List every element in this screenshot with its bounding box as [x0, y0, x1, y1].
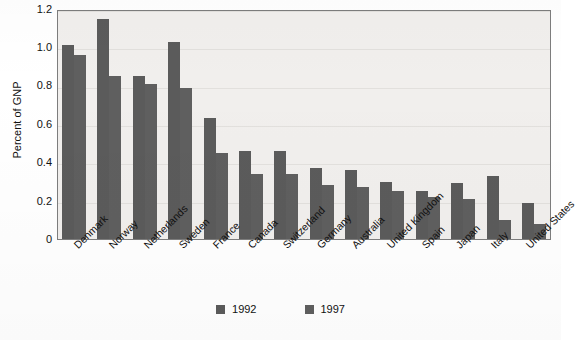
bar-norway-1997	[109, 76, 121, 239]
bar-group	[451, 11, 475, 239]
bar-germany-1992	[310, 168, 322, 239]
plot-area	[57, 10, 551, 240]
legend-swatch-icon	[305, 305, 314, 314]
bar-group	[239, 11, 263, 239]
bar-group	[345, 11, 369, 239]
chart-legend: 19921997	[0, 303, 561, 315]
bar-group	[522, 11, 546, 239]
y-tick-label: 1.0	[22, 42, 52, 52]
bar-netherlands-1997	[145, 84, 157, 239]
bar-united-kingdom-1992	[380, 182, 392, 240]
x-axis-tick-labels: DenmarkNorwayNetherlandsSwedenFranceCana…	[57, 243, 551, 305]
y-tick-label: 0.2	[22, 196, 52, 206]
bar-denmark-1997	[74, 55, 86, 239]
bar-japan-1992	[451, 183, 463, 239]
bar-group	[97, 11, 121, 239]
legend-label: 1997	[321, 303, 345, 315]
bar-group	[380, 11, 404, 239]
legend-item-1997: 1997	[305, 303, 345, 315]
y-tick-label: 0.8	[22, 80, 52, 90]
legend-swatch-icon	[216, 305, 225, 314]
bar-netherlands-1992	[133, 76, 145, 239]
bar-italy-1992	[487, 176, 499, 239]
y-tick-label: 0.4	[22, 157, 52, 167]
y-tick-label: 0.6	[22, 119, 52, 129]
y-tick-label: 0	[22, 234, 52, 244]
y-tick-label: 1.2	[22, 4, 52, 14]
bar-group	[133, 11, 157, 239]
bar-denmark-1992	[62, 45, 74, 239]
y-axis-tick-labels: 1.2 1.0 0.8 0.6 0.4 0.2 0	[22, 0, 52, 250]
bar-australia-1992	[345, 170, 357, 239]
bar-group	[204, 11, 228, 239]
legend-item-1992: 1992	[216, 303, 256, 315]
bar-group	[62, 11, 86, 239]
bars-layer	[58, 11, 550, 239]
bar-norway-1992	[97, 19, 109, 239]
bar-group	[274, 11, 298, 239]
legend-label: 1992	[232, 303, 256, 315]
bar-group	[310, 11, 334, 239]
bar-group	[487, 11, 511, 239]
